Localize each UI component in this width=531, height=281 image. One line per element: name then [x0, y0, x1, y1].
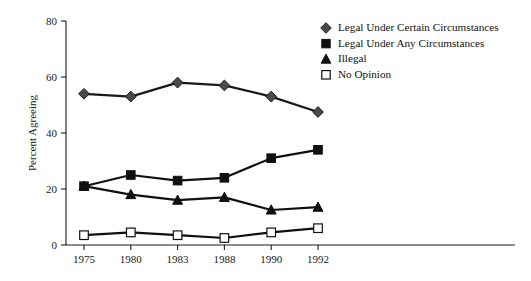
x-tick-label: 1980 — [120, 253, 143, 265]
series-line — [84, 186, 318, 210]
marker-diamond — [125, 91, 136, 102]
marker-square — [322, 39, 330, 47]
axes-group — [66, 21, 515, 245]
marker-square — [267, 154, 276, 163]
series-1 — [79, 77, 324, 117]
series-line — [84, 228, 318, 238]
legend-item-4: No Opinion — [322, 68, 392, 80]
x-tick-label: 1983 — [167, 253, 190, 265]
marker-square-open — [267, 228, 276, 237]
legend-item-2: Legal Under Any Circumstances — [322, 37, 485, 49]
x-tick-label: 1988 — [213, 253, 236, 265]
marker-diamond — [79, 88, 90, 99]
legend-item-1: Legal Under Certain Circumstances — [321, 21, 499, 33]
marker-diamond — [266, 91, 277, 102]
marker-square-open — [322, 71, 330, 79]
legend-item-label: Illegal — [338, 52, 367, 64]
y-axis-title: Percent Agreeing — [26, 94, 38, 171]
marker-square-open — [80, 231, 89, 240]
y-tick-label: 20 — [46, 183, 58, 195]
marker-diamond — [321, 23, 332, 34]
series-2 — [80, 146, 323, 191]
y-axis-ticks: 020406080 — [46, 15, 66, 251]
series-4 — [80, 224, 323, 242]
marker-diamond — [313, 107, 324, 118]
y-tick-label: 40 — [46, 127, 58, 139]
y-tick-label: 60 — [46, 71, 58, 83]
series-3 — [79, 181, 323, 214]
x-tick-label: 1990 — [260, 253, 283, 265]
y-tick-label: 80 — [46, 15, 58, 27]
legend-item-label: No Opinion — [338, 68, 392, 80]
marker-diamond — [219, 80, 230, 91]
marker-square-open — [314, 224, 323, 233]
y-tick-label: 0 — [52, 239, 58, 251]
x-tick-label: 1975 — [73, 253, 96, 265]
marker-triangle — [321, 54, 331, 63]
x-tick-label: 1992 — [307, 253, 329, 265]
legend-item-label: Legal Under Certain Circumstances — [338, 21, 499, 33]
marker-square-open — [173, 231, 182, 240]
marker-square — [127, 171, 136, 180]
x-axis-ticks: 197519801983198819901992 — [73, 245, 329, 265]
chart-container: 020406080Percent Agreeing197519801983198… — [0, 0, 531, 281]
series-line — [84, 150, 318, 186]
percent-agreeing-line-chart: 020406080Percent Agreeing197519801983198… — [0, 0, 531, 281]
legend-item-label: Legal Under Any Circumstances — [338, 37, 484, 49]
marker-diamond — [172, 77, 183, 88]
legend: Legal Under Certain CircumstancesLegal U… — [321, 21, 499, 80]
marker-square — [173, 176, 182, 185]
axis-lines — [66, 21, 515, 245]
legend-item-3: Illegal — [321, 52, 366, 64]
marker-square — [220, 174, 229, 183]
marker-square-open — [220, 234, 229, 243]
marker-square — [314, 146, 323, 155]
marker-square-open — [127, 228, 136, 237]
series-line — [84, 83, 318, 112]
